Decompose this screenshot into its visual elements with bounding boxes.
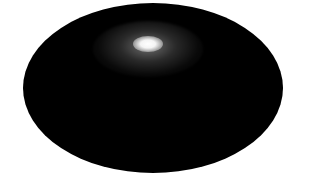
source-core	[133, 36, 163, 52]
sky-map-ellipse	[23, 3, 283, 173]
